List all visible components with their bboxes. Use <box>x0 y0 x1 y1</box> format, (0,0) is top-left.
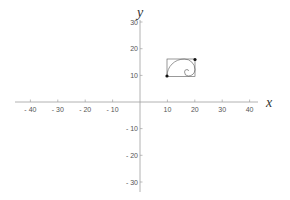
y-tick-label: 10 <box>130 72 138 79</box>
point-end <box>193 58 196 61</box>
y-axis-label: y <box>135 5 144 20</box>
x-tick-label: 20 <box>191 106 199 113</box>
x-tick-label: 30 <box>218 106 226 113</box>
y-tick-label: - 20 <box>126 152 138 159</box>
point-start <box>165 74 168 77</box>
x-tick-label: 40 <box>246 106 254 113</box>
golden-spiral-figure <box>167 59 195 77</box>
x-tick-label: - 10 <box>107 106 119 113</box>
x-tick-label: - 20 <box>79 106 91 113</box>
x-tick-label: - 40 <box>24 106 36 113</box>
coordinate-plane: - 40 - 30 - 20 - 10 10 20 30 40 30 20 10… <box>0 0 290 200</box>
golden-rectangle <box>167 59 195 77</box>
y-tick-label: 20 <box>130 45 138 52</box>
x-tick-label: 10 <box>164 106 172 113</box>
x-axis-label: x <box>265 95 273 110</box>
y-tick-label: - 10 <box>126 125 138 132</box>
x-tick-labels: - 40 - 30 - 20 - 10 10 20 30 40 <box>24 106 253 113</box>
x-tick-label: - 30 <box>52 106 64 113</box>
y-tick-label: - 30 <box>126 179 138 186</box>
golden-spiral <box>167 59 195 76</box>
